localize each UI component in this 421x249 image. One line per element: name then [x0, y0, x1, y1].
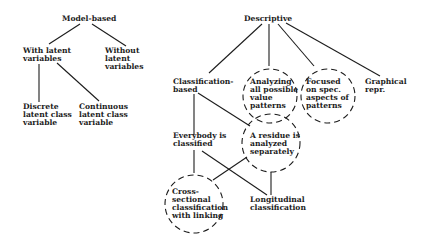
node-analyzing: Analyzing all possible value patterns [249, 77, 298, 110]
node-discrete: Discrete latent class variable [22, 102, 72, 127]
svg-text:classified: classified [173, 139, 213, 148]
node-continuous: Continuous latent class variable [78, 102, 128, 127]
svg-text:separately: separately [250, 147, 294, 156]
node-focused: Focused on spec. aspects of patterns [306, 77, 349, 110]
svg-text:variable: variable [22, 118, 57, 127]
svg-text:classification: classification [250, 203, 306, 212]
node-cross-sectional: Cross- sectional classification with lin… [171, 187, 228, 220]
svg-text:variables: variables [104, 62, 143, 71]
node-longitudinal: Longitudinal classification [250, 195, 306, 212]
node-graphical: Graphical repr. [365, 77, 407, 94]
node-descriptive: Descriptive [244, 14, 292, 23]
svg-text:patterns: patterns [250, 101, 286, 110]
node-residue: A residue is analyzed separately [249, 131, 300, 156]
svg-text:variable: variable [78, 118, 113, 127]
svg-text:repr.: repr. [365, 85, 385, 94]
svg-text:patterns: patterns [306, 101, 342, 110]
svg-text:based: based [173, 85, 198, 94]
node-without-latent: Without latent variables [104, 46, 143, 71]
svg-text:with linking: with linking [171, 211, 224, 220]
node-classification-based: Classification- based [173, 77, 233, 94]
node-everybody: Everybody is classified [173, 131, 226, 148]
node-with-latent: With latent variables [22, 46, 72, 63]
node-model-based: Model-based [62, 14, 117, 23]
svg-text:variables: variables [22, 54, 61, 63]
taxonomy-diagram: Model-based With latent variables Withou… [0, 0, 421, 249]
